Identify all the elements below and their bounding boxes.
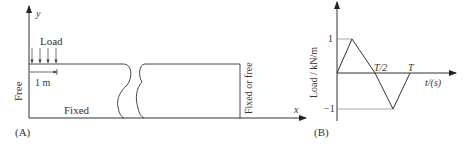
x-tick-full: T (408, 62, 415, 73)
load-curve (337, 39, 410, 109)
y-axis-label: y (35, 8, 41, 19)
load-arrows (32, 48, 56, 63)
y-tick-1: 1 (328, 33, 333, 44)
y-axis-label: Load / kN/m (308, 47, 319, 98)
panel-b-caption: (B) (314, 126, 329, 139)
bottom-boundary-label: Fixed (64, 104, 90, 116)
dimension-label: 1 m (35, 77, 51, 88)
panel-b: 1 −1 T/2 T t/(s) Load / kN/m (B) (308, 2, 456, 139)
panel-a: y x Load 1 m Free Fixed Fixed or free (A… (12, 6, 306, 139)
y-tick-neg1: −1 (324, 103, 335, 114)
left-boundary-label: Free (12, 81, 24, 101)
x-axis-label: t/(s) (425, 77, 442, 89)
x-tick-half: T/2 (374, 62, 387, 73)
panel-a-caption: (A) (15, 126, 31, 139)
diagram-canvas: y x Load 1 m Free Fixed Fixed or free (A… (0, 0, 469, 145)
right-boundary-label: Fixed or free (243, 62, 254, 114)
load-label: Load (40, 35, 63, 47)
x-axis-label: x (293, 104, 299, 115)
domain-right-part (136, 64, 240, 118)
